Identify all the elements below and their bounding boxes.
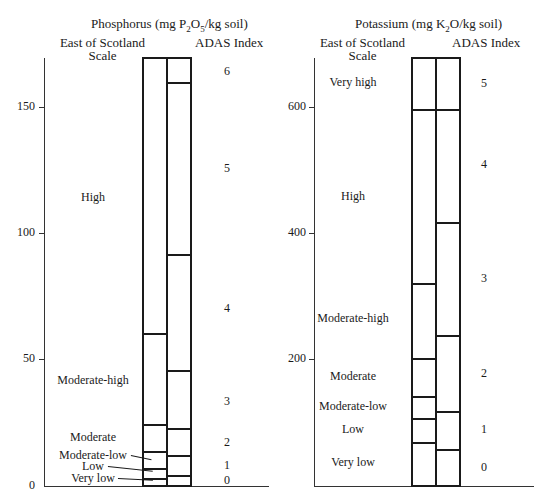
potassium-label-low: Low	[342, 422, 364, 437]
potassium-tick-200: 200	[276, 351, 306, 366]
phosphorus-label-high: High	[81, 190, 105, 205]
potassium-index-0: 0	[481, 460, 487, 475]
potassium-label-moderate-low: Moderate-low	[319, 399, 387, 414]
header-line: Scale	[310, 49, 415, 62]
potassium-label-very-low: Very low	[331, 455, 375, 470]
potassium-adas-column	[435, 57, 461, 487]
phosphorus-header-adas: ADAS Index	[195, 36, 263, 49]
potassium-tick-mark	[309, 107, 314, 108]
phosphorus-label-moderate: Moderate	[70, 430, 116, 445]
boundary-70	[413, 442, 435, 444]
boundary-12	[168, 455, 190, 457]
phosphorus-tick-100: 100	[5, 225, 35, 240]
phosphorus-tick-50: 50	[5, 351, 35, 366]
phosphorus-tick-mark	[39, 107, 44, 108]
phosphorus-label-very-low: Very low	[71, 471, 115, 486]
boundary-160	[168, 82, 190, 84]
title-part: O/kg soil)	[450, 16, 502, 31]
boundary-23	[168, 428, 190, 430]
phosphorus-east-scotland-column	[142, 57, 168, 487]
phosphorus-index-5: 5	[224, 161, 230, 176]
potassium-panel: Potassium (mg K2O/kg soil) East of Scotl…	[270, 0, 547, 502]
potassium-header-adas: ADAS Index	[452, 36, 520, 49]
title-part: Potassium (mg K	[355, 16, 445, 31]
phosphorus-y-axis	[44, 58, 45, 486]
phosphorus-index-2: 2	[224, 435, 230, 450]
potassium-header-east-scotland: East of Scotland Scale	[310, 36, 415, 62]
boundary-420	[437, 222, 459, 224]
phosphorus-title: Phosphorus (mg P2O5/kg soil)	[91, 16, 248, 34]
boundary-325	[413, 283, 435, 285]
boundary-60	[437, 449, 459, 451]
potassium-east-scotland-column	[411, 57, 437, 487]
potassium-label-high: High	[341, 189, 365, 204]
potassium-tick-mark	[309, 233, 314, 234]
boundary-600	[413, 109, 435, 111]
phosphorus-label-moderate-high: Moderate-high	[57, 373, 128, 388]
boundary-145	[413, 396, 435, 398]
phosphorus-index-3: 3	[224, 394, 230, 409]
potassium-label-moderate-high: Moderate-high	[317, 311, 388, 326]
title-part: O	[191, 16, 200, 31]
boundary-240	[437, 335, 459, 337]
boundary-25	[144, 424, 166, 426]
potassium-label-moderate: Moderate	[330, 369, 376, 384]
potassium-index-3: 3	[481, 271, 487, 286]
phosphorus-tick-150: 150	[5, 99, 35, 114]
title-part: /kg soil)	[205, 16, 248, 31]
header-line: Scale	[50, 49, 155, 62]
potassium-tick-600: 600	[276, 99, 306, 114]
boundary-600	[437, 109, 459, 111]
phosphorus-index-0: 0	[224, 473, 230, 488]
phosphorus-tick-mark	[39, 359, 44, 360]
potassium-y-axis	[314, 58, 315, 486]
boundary-110	[413, 418, 435, 420]
potassium-title: Potassium (mg K2O/kg soil)	[355, 16, 502, 34]
potassium-index-2: 2	[481, 366, 487, 381]
boundary-46	[168, 370, 190, 372]
title-part: Phosphorus (mg P	[91, 16, 186, 31]
potassium-index-5: 5	[481, 76, 487, 91]
boundary-92	[168, 254, 190, 256]
phosphorus-header-east-scotland: East of Scotland Scale	[50, 36, 155, 62]
phosphorus-tick-mark	[39, 233, 44, 234]
potassium-index-4: 4	[481, 157, 487, 172]
phosphorus-tick-0: 0	[5, 478, 35, 493]
boundary-205	[413, 358, 435, 360]
phosphorus-adas-column	[166, 57, 192, 487]
phosphorus-index-1: 1	[224, 458, 230, 473]
potassium-tick-mark	[309, 359, 314, 360]
boundary-60	[144, 333, 166, 335]
phosphorus-index-6: 6	[224, 64, 230, 79]
potassium-label-very-high: Very high	[330, 75, 377, 90]
phosphorus-index-4: 4	[224, 301, 230, 316]
potassium-tick-400: 400	[276, 225, 306, 240]
phosphorus-panel: Phosphorus (mg P2O5/kg soil) East of Sco…	[0, 0, 270, 502]
potassium-index-1: 1	[481, 422, 487, 437]
boundary-120	[437, 411, 459, 413]
boundary-14	[144, 451, 166, 453]
boundary-4	[168, 475, 190, 477]
